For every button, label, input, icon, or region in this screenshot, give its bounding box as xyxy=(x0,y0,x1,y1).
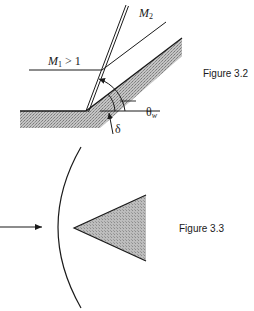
figure-3-2: M1 > 1 M2 θw δ Figure 3.2 xyxy=(20,5,248,136)
diagram-canvas: M1 > 1 M2 θw δ Figure 3.2 Figure 3.3 xyxy=(0,0,254,311)
figure-3-3-caption: Figure 3.3 xyxy=(179,223,224,234)
deflection-angle-label: δ xyxy=(115,122,121,136)
downstream-mach-label: M2 xyxy=(138,6,153,21)
wedge-body xyxy=(74,195,146,261)
wall-hatching xyxy=(20,38,182,128)
figure-3-2-caption: Figure 3.2 xyxy=(203,68,248,79)
upstream-mach-label: M1 > 1 xyxy=(47,54,81,69)
figure-3-3: Figure 3.3 xyxy=(0,147,224,308)
shock-angle-label: θw xyxy=(146,105,158,120)
